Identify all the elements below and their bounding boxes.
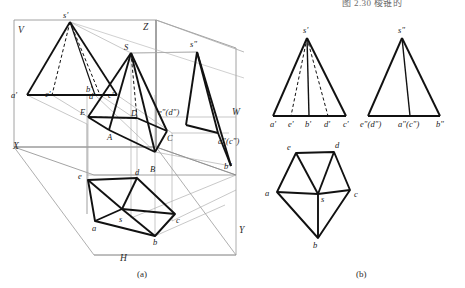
plane-label-V: V	[18, 26, 24, 36]
label-a-prime-a: a'	[11, 91, 17, 100]
projector-b	[95, 95, 155, 152]
label-d-prime-a: d'	[89, 92, 95, 101]
bv-tp-spoke-sa	[277, 192, 318, 194]
label-B-a: B	[150, 165, 155, 174]
label-ed-dprime-b: e"(d")	[360, 120, 381, 129]
sp-edge-SB	[131, 53, 155, 152]
label-a-prime-b: a'	[270, 120, 276, 129]
v-plane-outline	[14, 20, 156, 147]
panel-b-side-view-inner	[402, 38, 410, 116]
panel-b-top-view	[277, 152, 350, 238]
bv-tp-spoke-sd	[318, 152, 334, 194]
pp-base-1	[186, 125, 218, 133]
label-d-top-b: d	[335, 141, 339, 150]
label-b-dprime-a: b"	[224, 162, 232, 171]
sp-edge-SE	[88, 53, 131, 117]
label-ac-dprime-b: a"(c")	[398, 120, 419, 129]
label-b-h-a: b	[153, 238, 157, 247]
profile-projection-a	[186, 52, 231, 166]
label-A-a: A	[107, 133, 112, 142]
label-s-prime-a: s'	[63, 11, 68, 20]
label-s-dprime-b: s"	[398, 26, 405, 35]
panel-b-front-view-hidden	[291, 38, 328, 116]
bv-fp-right	[307, 38, 346, 116]
label-s-h-a: s	[119, 215, 122, 224]
label-S-a: S	[124, 43, 128, 52]
plane-label-X: X	[13, 142, 19, 152]
label-ed-dprime-a: e"(d")	[158, 108, 179, 117]
label-s-top-b: s	[321, 195, 324, 204]
label-e-prime-a: e'	[45, 90, 51, 99]
figure-page: 图 2.30 棱锥的	[0, 0, 465, 288]
label-E-a: E	[80, 108, 85, 117]
label-c-h-a: c	[176, 216, 180, 225]
oblique-top-right	[156, 20, 244, 52]
label-d-prime-b: d'	[324, 120, 330, 129]
panel-b-front-view-inner	[307, 38, 309, 116]
sp-base-EA	[88, 117, 109, 130]
label-e-top-b: e	[287, 143, 291, 152]
bv-fp-hidden-sd	[307, 38, 328, 116]
label-D-a: D	[131, 109, 137, 118]
bv-tp-outline	[277, 152, 350, 238]
panel-b-front-view	[273, 38, 346, 116]
projector-a	[27, 95, 87, 124]
bv-sp-left	[368, 38, 402, 116]
plane-label-W: W	[232, 108, 240, 118]
label-s-prime-b: s'	[303, 26, 308, 35]
horizontal-projection-a	[88, 178, 175, 236]
diag-h-proj-2	[172, 190, 236, 221]
panel-b-side-view	[368, 38, 440, 116]
label-a-h-a: a	[92, 224, 96, 233]
hp-spoke-sd	[122, 178, 137, 209]
bv-tp-spoke-se	[296, 153, 318, 194]
label-ac-dprime-a: a"(c")	[218, 137, 239, 146]
hp-spoke-sc	[122, 209, 175, 214]
caption-a: (a)	[137, 270, 147, 279]
fp-left-edge	[27, 22, 70, 95]
label-c-top-b: c	[354, 190, 358, 199]
pp-left-edge	[186, 52, 197, 125]
plane-label-H: H	[120, 254, 127, 264]
label-c-prime-b: c'	[343, 120, 349, 129]
label-C-a: C	[167, 134, 173, 143]
hp-spoke-sa	[95, 209, 122, 221]
caption-b: (b)	[356, 270, 367, 279]
label-a-top-b: a	[265, 189, 269, 198]
label-s-dprime-a: s"	[190, 40, 197, 49]
hp-outline	[88, 178, 175, 236]
horiz-w-guide4	[155, 152, 231, 166]
bv-fp-mid	[307, 38, 309, 116]
plane-label-Y: Y	[239, 226, 244, 236]
sp-base-AB	[109, 130, 155, 152]
label-c-prime-a: c'	[108, 91, 114, 100]
bv-sp-right	[402, 38, 440, 116]
plane-label-Z: Z	[143, 23, 148, 33]
bv-fp-hidden-se	[291, 38, 307, 116]
label-b-prime-b: b'	[305, 120, 311, 129]
label-e-h-a: e	[78, 172, 82, 181]
fp-hidden-sd	[70, 22, 100, 95]
label-b-top-b: b	[313, 241, 317, 250]
oblique-apex-guide	[70, 22, 244, 78]
label-b-dprime-b: b"	[436, 120, 444, 129]
diag-h-proj-3	[155, 205, 225, 236]
label-d-h-a: d	[135, 168, 139, 177]
pp-mid-edge	[197, 52, 218, 133]
bv-fp-left	[273, 38, 307, 116]
label-e-prime-b: e'	[288, 120, 294, 129]
fp-hidden-se	[52, 22, 70, 95]
bv-sp-mid	[402, 38, 410, 116]
